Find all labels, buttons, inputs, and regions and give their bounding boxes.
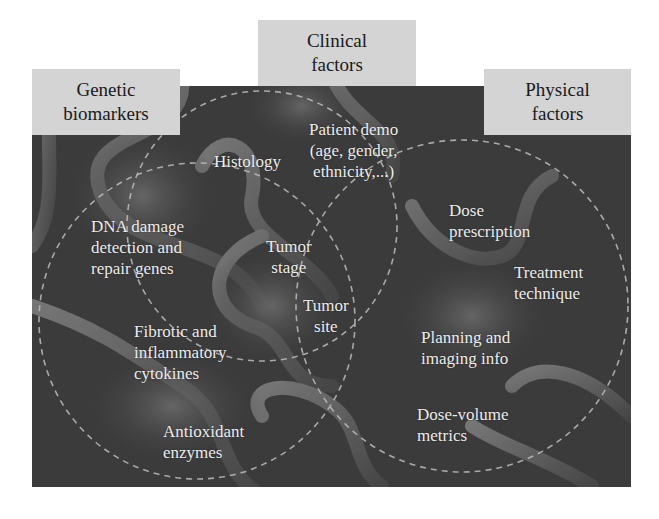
category-label-line: Genetic	[76, 78, 135, 102]
item-text: metrics	[417, 425, 509, 446]
item-text: Dose	[449, 200, 530, 221]
item-text: enzymes	[163, 442, 244, 463]
item-text: (age, gender,	[309, 140, 398, 161]
category-label-line: factors	[311, 53, 363, 77]
item-text: stage	[266, 257, 312, 278]
item-text: detection and	[91, 237, 184, 258]
item-text: Treatment	[514, 262, 583, 283]
item-text: Tumor	[266, 236, 312, 257]
category-label-line: factors	[532, 102, 584, 126]
item-text: cytokines	[134, 363, 227, 384]
item-text: ethnicity,...)	[309, 161, 398, 182]
item-text: imaging info	[421, 348, 510, 369]
item-dose-volume-metrics: Dose-volume metrics	[417, 404, 509, 446]
item-text: Dose-volume	[417, 404, 509, 425]
item-text: repair genes	[91, 258, 184, 279]
category-genetic-biomarkers: Genetic biomarkers	[32, 69, 180, 135]
item-planning-imaging-info: Planning and imaging info	[421, 327, 510, 369]
item-tumor-stage: Tumor stage	[266, 236, 312, 278]
item-treatment-technique: Treatment technique	[514, 262, 583, 304]
item-text: DNA damage	[91, 216, 184, 237]
item-text: Patient demo	[309, 119, 398, 140]
item-text: Histology	[214, 151, 281, 172]
item-text: Tumor	[303, 295, 349, 316]
category-clinical-factors: Clinical factors	[258, 20, 416, 86]
category-label-line: Clinical	[307, 29, 367, 53]
item-text: Antioxidant	[163, 421, 244, 442]
item-tumor-site: Tumor site	[303, 295, 349, 337]
item-fibrotic-inflammatory-cytokines: Fibrotic and inflammatory cytokines	[134, 321, 227, 384]
item-histology: Histology	[214, 151, 281, 172]
category-physical-factors: Physical factors	[484, 69, 631, 135]
item-text: site	[303, 316, 349, 337]
item-dose-prescription: Dose prescription	[449, 200, 530, 242]
item-antioxidant-enzymes: Antioxidant enzymes	[163, 421, 244, 463]
item-text: Planning and	[421, 327, 510, 348]
item-text: technique	[514, 283, 583, 304]
item-text: inflammatory	[134, 342, 227, 363]
item-text: prescription	[449, 221, 530, 242]
item-dna-damage-repair-genes: DNA damage detection and repair genes	[91, 216, 184, 279]
category-label-line: Physical	[525, 78, 589, 102]
item-patient-demographics: Patient demo (age, gender, ethnicity,...…	[309, 119, 398, 182]
item-text: Fibrotic and	[134, 321, 227, 342]
category-label-line: biomarkers	[63, 102, 148, 126]
